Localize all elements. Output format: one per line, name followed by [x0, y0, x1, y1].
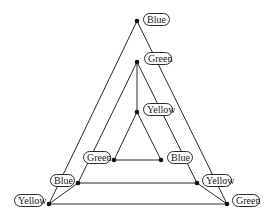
edge-mid_top-mid_right — [137, 62, 197, 183]
node-label-mid_top: Green — [144, 52, 172, 65]
node-dot-inner_left — [112, 158, 117, 163]
node-dot-inner_right — [159, 158, 164, 163]
node-label-mid_right: Yellow — [202, 174, 232, 187]
node-dot-outer_left — [47, 202, 52, 207]
node-label-outer_right: Green — [232, 194, 260, 207]
node-label-inner_left: Green — [83, 151, 111, 164]
edge-inner_top-inner_right — [137, 112, 161, 160]
node-label-outer_top: Blue — [143, 13, 170, 26]
node-label-inner_top: Yellow — [143, 103, 173, 116]
node-dot-inner_top — [135, 110, 140, 115]
edges-layer — [0, 0, 272, 224]
node-dot-outer_top — [135, 19, 140, 24]
edge-inner_top-inner_left — [114, 112, 137, 160]
node-dot-mid_right — [195, 181, 200, 186]
node-label-inner_right: Blue — [167, 151, 193, 164]
nested-triangle-graph: BlueGreenYellowGreenBlueBlueYellowYellow… — [0, 0, 272, 224]
node-label-mid_left: Blue — [50, 174, 75, 187]
node-dot-mid_left — [76, 181, 81, 186]
node-dot-outer_right — [225, 202, 230, 207]
node-label-outer_left: Yellow — [14, 194, 44, 207]
edge-mid_top-mid_left — [78, 62, 137, 183]
node-dot-mid_top — [135, 60, 140, 65]
